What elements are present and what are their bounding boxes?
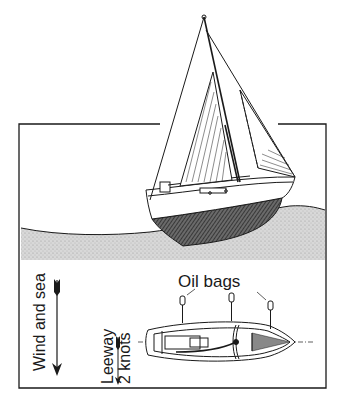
wind-and-sea-label: Wind and sea bbox=[31, 273, 49, 371]
leeway-line-2: 2 knots bbox=[116, 329, 133, 384]
leeway-label: Leeway 2 knots bbox=[99, 329, 133, 384]
diagram-canvas bbox=[0, 0, 341, 407]
mainsail bbox=[180, 72, 232, 186]
oil-bag-2 bbox=[229, 293, 234, 321]
oil-bags-label: Oil bags bbox=[178, 272, 240, 292]
sailboat-plan-view bbox=[138, 322, 315, 361]
sailboat-side-view bbox=[146, 15, 295, 246]
leeway-line-1: Leeway bbox=[99, 329, 116, 384]
wind-arrow bbox=[52, 279, 62, 376]
oil-bag-1 bbox=[180, 289, 195, 323]
